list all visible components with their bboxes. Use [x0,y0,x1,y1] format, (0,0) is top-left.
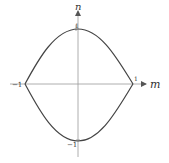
tick-label-x-neg: −1 [12,81,22,89]
lower-curve [25,84,133,141]
upper-curve [25,29,133,84]
x-axis-label: m [150,78,160,91]
y-axis-label: n [75,1,81,12]
tick-label-y-neg: −1 [67,141,77,149]
tick-label-y-pos: 1 [75,22,79,29]
tick-label-x-pos: 1 [134,75,138,82]
diagram-canvas: n m 1 −1 1 −1 [0,0,169,163]
